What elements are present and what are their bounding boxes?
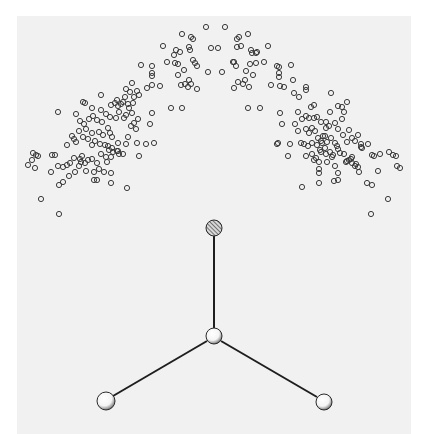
scatter-dot (203, 24, 208, 29)
scatter-dot (261, 59, 266, 64)
scatter-dot (136, 153, 141, 158)
scatter-dot (80, 134, 85, 139)
scatter-dot (316, 180, 321, 185)
scatter-dot (314, 114, 319, 119)
scatter-dot (124, 185, 129, 190)
scatter-dot (315, 135, 320, 140)
scatter-dot (296, 94, 301, 99)
scatter-dot (314, 142, 319, 147)
scatter-dot (108, 180, 113, 185)
scatter-dot (279, 121, 284, 126)
scatter-dot (143, 141, 148, 146)
scatter-dot (324, 159, 329, 164)
scatter-dot (215, 45, 220, 50)
scatter-dot (128, 123, 133, 128)
scatter-dot (245, 31, 250, 36)
scatter-dot (83, 168, 88, 173)
scatter-dot (332, 120, 337, 125)
scatter-dot (48, 169, 53, 174)
scatter-dot (369, 182, 374, 187)
scatter-dot (291, 90, 296, 95)
diagram-canvas (0, 0, 425, 434)
scatter-dot (81, 121, 86, 126)
scatter-dot (268, 82, 273, 87)
scatter-dot (245, 105, 250, 110)
scatter-dot (318, 119, 323, 124)
scatter-dot (134, 140, 139, 145)
scatter-dot (71, 155, 76, 160)
scatter-dot (123, 141, 128, 146)
scatter-dot (292, 121, 297, 126)
scatter-dot (288, 62, 293, 67)
scatter-dot (247, 61, 252, 66)
scatter-dot (181, 67, 186, 72)
scatter-dot (85, 136, 90, 141)
scatter-dot (60, 179, 65, 184)
scatter-dot (312, 128, 317, 133)
figure (0, 0, 425, 434)
scatter-dot (316, 159, 321, 164)
scatter-dot (393, 153, 398, 158)
scatter-dot (94, 160, 99, 165)
scatter-dot (83, 126, 88, 131)
scatter-dot (303, 153, 308, 158)
scatter-dot (243, 68, 248, 73)
scatter-dot (309, 125, 314, 130)
scatter-dot (127, 89, 132, 94)
scatter-dot (55, 163, 60, 168)
scatter-dot (55, 109, 60, 114)
scatter-dot (115, 140, 120, 145)
scatter-dot (99, 119, 104, 124)
scatter-dot (335, 170, 340, 175)
scatter-dot (108, 154, 113, 159)
scatter-dot (194, 86, 199, 91)
scatter-dot (340, 132, 345, 137)
scatter-dot (168, 105, 173, 110)
scatter-dot (377, 151, 382, 156)
scatter-dot (104, 159, 109, 164)
scatter-dot (257, 105, 262, 110)
scatter-dot (56, 211, 61, 216)
scatter-dot (208, 45, 213, 50)
scatter-dot (327, 109, 332, 114)
scatter-dot (91, 169, 96, 174)
scatter-points (25, 24, 402, 216)
scatter-dot (103, 111, 108, 116)
scatter-dot (344, 139, 349, 144)
scatter-dot (205, 69, 210, 74)
scatter-dot (175, 61, 180, 66)
scatter-dot (64, 142, 69, 147)
scatter-dot (89, 130, 94, 135)
scatter-dot (97, 141, 102, 146)
scatter-dot (185, 84, 190, 89)
scatter-dot (116, 109, 121, 114)
scatter-dot (285, 153, 290, 158)
scatter-dot (108, 170, 113, 175)
scatter-dot (149, 110, 154, 115)
scatter-dot (131, 120, 136, 125)
scatter-dot (341, 109, 346, 114)
scatter-dot (101, 169, 106, 174)
scatter-dot (92, 138, 97, 143)
scatter-dot (352, 138, 357, 143)
left-atom (97, 392, 115, 410)
scatter-dot (253, 60, 258, 65)
scatter-dot (66, 173, 71, 178)
scatter-dot (295, 109, 300, 114)
scatter-dot (179, 105, 184, 110)
scatter-dot (32, 165, 37, 170)
scatter-dot (356, 169, 361, 174)
scatter-dot (25, 162, 30, 167)
scatter-dot (96, 166, 101, 171)
scatter-dot (113, 115, 118, 120)
scatter-dot (73, 111, 78, 116)
scatter-dot (29, 157, 34, 162)
scatter-dot (171, 52, 176, 57)
scatter-dot (339, 116, 344, 121)
scatter-dot (290, 77, 295, 82)
scatter-dot (277, 110, 282, 115)
scatter-dot (346, 127, 351, 132)
scatter-dot (385, 196, 390, 201)
scatter-dot (187, 47, 192, 52)
scatter-dot (38, 196, 43, 201)
